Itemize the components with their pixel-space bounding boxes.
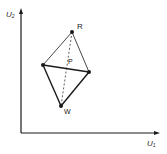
y-axis-arrow-icon xyxy=(19,8,23,14)
point-right xyxy=(87,70,91,74)
point-W xyxy=(59,104,63,108)
edge-L-right xyxy=(43,65,89,72)
point-label-W: W xyxy=(64,108,71,115)
diagram-svg xyxy=(0,0,167,154)
diagram-canvas: U2 U1 R P W xyxy=(0,0,167,154)
y-axis-label-sub: 2 xyxy=(12,13,15,19)
point-label-R: R xyxy=(77,23,83,31)
edge-R-right xyxy=(72,32,89,72)
x-axis-arrow-icon xyxy=(154,131,160,135)
y-axis-label: U2 xyxy=(6,11,15,19)
edge-L-W xyxy=(43,65,61,106)
point-R xyxy=(70,30,74,34)
x-axis-label: U1 xyxy=(147,140,156,148)
point-label-P: P xyxy=(68,58,73,65)
point-left xyxy=(41,63,45,67)
x-axis-label-sub: 1 xyxy=(153,142,156,148)
